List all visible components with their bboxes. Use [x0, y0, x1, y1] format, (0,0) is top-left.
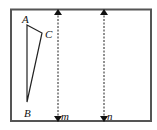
diagram-canvas: A C B m n [0, 0, 157, 130]
label-m: m [61, 110, 69, 122]
frame-border [11, 10, 151, 122]
triangle-abc [27, 25, 42, 102]
label-c: C [45, 28, 53, 40]
label-n: n [107, 110, 113, 122]
label-b: B [24, 107, 31, 119]
label-a: A [21, 13, 29, 25]
